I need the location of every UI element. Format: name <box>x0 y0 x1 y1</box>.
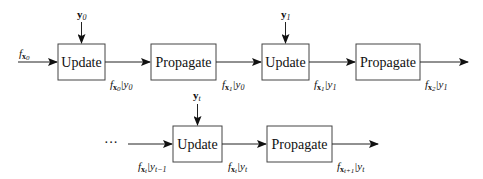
edge-label-0: fx0|y0 <box>110 78 132 93</box>
update-block-0-label: Update <box>61 55 101 70</box>
propagate-block-0-label: Propagate <box>156 55 212 70</box>
input-label: fx0 <box>19 47 30 62</box>
update-block-t-label: Update <box>177 137 217 152</box>
row-1: fx0 Update y0 fx0|y0 Propagate fx1|y0 Up… <box>18 8 468 93</box>
row2-edge-label-2: fxt+1|yt <box>337 160 365 175</box>
recursive-bayes-filter-diagram: fx0 Update y0 fx0|y0 Propagate fx1|y0 Up… <box>0 0 483 179</box>
row-2: ··· fxt|yt−1 Update yt fxt|yt Propagate … <box>104 89 378 175</box>
row2-edge-label-1: fxt|yt <box>228 160 248 175</box>
edge-label-3: fx2|y1 <box>425 78 447 93</box>
row2-edge-label-0: fxt|yt−1 <box>138 160 167 175</box>
observation-label-0: y0 <box>77 8 87 22</box>
ellipsis: ··· <box>104 135 118 150</box>
update-block-1-label: Update <box>265 55 305 70</box>
edge-label-1: fx1|y0 <box>222 78 244 93</box>
edge-label-2: fx1|y1 <box>314 78 336 93</box>
observation-label-t: yt <box>193 89 202 103</box>
propagate-block-1-label: Propagate <box>360 55 416 70</box>
observation-label-1: y1 <box>281 8 291 22</box>
propagate-block-t-label: Propagate <box>272 137 328 152</box>
